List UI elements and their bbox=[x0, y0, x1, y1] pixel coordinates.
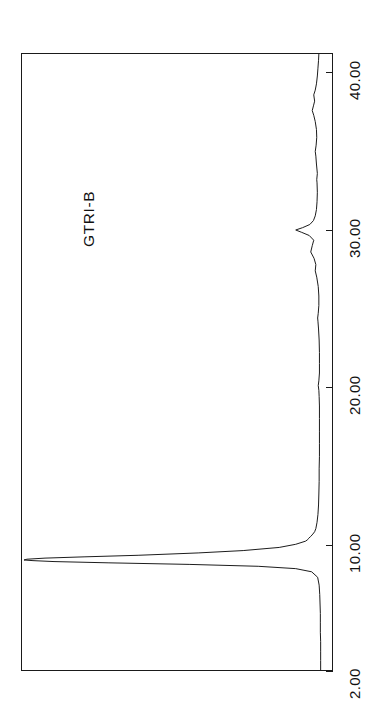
chromatogram-figure: GTRI-B 2.0010.0020.0030.0040.00 bbox=[0, 0, 381, 720]
chromatogram-trace bbox=[22, 54, 332, 670]
axis-tick-mark bbox=[326, 545, 333, 546]
axis-tick-label: 30.00 bbox=[346, 218, 363, 258]
axis-tick-mark bbox=[326, 387, 333, 388]
sample-label: GTRI-B bbox=[78, 117, 100, 247]
plot-frame bbox=[21, 53, 333, 671]
axis-tick-label: 10.00 bbox=[346, 533, 363, 573]
axis-tick-mark bbox=[326, 671, 333, 672]
axis-tick-label: 20.00 bbox=[346, 376, 363, 416]
axis-tick-mark bbox=[326, 230, 333, 231]
axis-tick-mark bbox=[326, 72, 333, 73]
axis-tick-label: 40.00 bbox=[346, 60, 363, 100]
axis-tick-label: 2.00 bbox=[346, 668, 363, 699]
